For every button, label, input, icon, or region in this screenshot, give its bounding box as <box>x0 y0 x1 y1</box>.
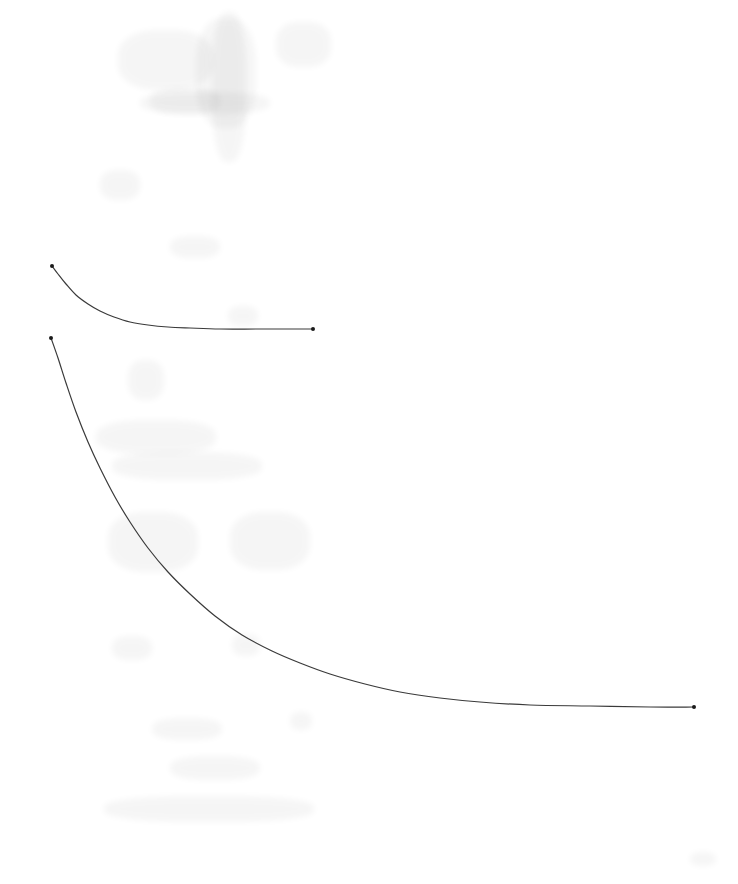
curve-group-upper <box>50 264 315 331</box>
upper-curve-start-marker <box>50 264 54 268</box>
figure-canvas <box>0 0 738 884</box>
upper-curve-line <box>52 266 313 329</box>
curve-group-lower <box>49 336 696 709</box>
decay-curves-plot <box>0 0 738 884</box>
lower-curve-end-marker <box>692 705 696 709</box>
upper-curve-end-marker <box>311 327 315 331</box>
lower-curve-line <box>51 338 694 707</box>
lower-curve-start-marker <box>49 336 53 340</box>
